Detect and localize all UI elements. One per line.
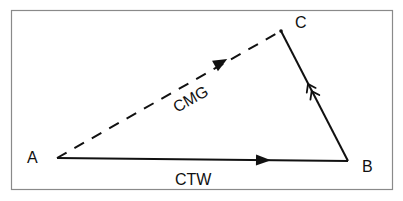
point-b-label: B [362,158,373,175]
vector-triangle-diagram: A B C CTW CMG [0,0,403,201]
ctw-label: CTW [175,171,212,188]
point-c-label: C [295,14,307,31]
point-c-marker [279,29,283,33]
point-a-label: A [27,149,38,166]
